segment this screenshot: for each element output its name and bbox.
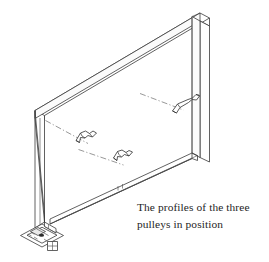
right-post-inner-face bbox=[192, 17, 200, 158]
pulley-3-arm-edge bbox=[192, 98, 193, 100]
mounting-hole bbox=[39, 234, 44, 237]
pulley-profile-1 bbox=[76, 131, 97, 143]
base-plate-foot bbox=[21, 222, 64, 251]
right-post-side-face bbox=[200, 21, 210, 162]
figure-canvas: The profiles of the three pulleys in pos… bbox=[0, 0, 269, 262]
figure-caption: The profiles of the three pulleys in pos… bbox=[137, 199, 265, 233]
frame-right-post bbox=[192, 13, 210, 162]
pulley-centerlines bbox=[46, 94, 184, 166]
pulley-profile-2 bbox=[114, 150, 133, 161]
frame-left-post bbox=[35, 111, 45, 229]
pulley-1-profile-outline bbox=[76, 131, 97, 143]
pulley-2-profile-outline bbox=[114, 150, 133, 161]
caption-line-2: pulleys in position bbox=[137, 216, 265, 233]
centerline-pulley-1 bbox=[46, 121, 89, 144]
caption-line-1: The profiles of the three bbox=[137, 199, 265, 216]
top-rail-front-face bbox=[35, 13, 200, 119]
